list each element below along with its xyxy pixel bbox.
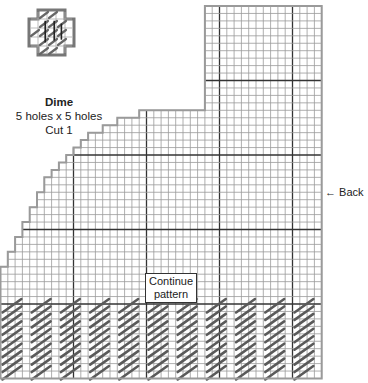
slanted-stitch	[90, 344, 109, 357]
slanted-stitch	[149, 321, 168, 334]
continue-pattern-note: Continue pattern	[145, 273, 197, 303]
slanted-stitch	[295, 321, 314, 334]
piece-caption: Dime 5 holes x 5 holes Cut 1	[0, 95, 118, 137]
slanted-stitch	[236, 306, 255, 319]
slanted-stitch	[90, 336, 109, 349]
slanted-stitch	[32, 359, 51, 372]
piece-size: 5 holes x 5 holes	[0, 109, 118, 123]
slanted-stitch	[207, 299, 226, 312]
slanted-stitch	[207, 366, 226, 379]
slanted-stitch	[119, 314, 138, 327]
slanted-stitch	[32, 314, 51, 327]
slanted-stitch	[295, 314, 314, 327]
back-side-label: ← Back	[325, 186, 364, 198]
slanted-stitch	[295, 306, 314, 319]
slanted-stitch	[178, 359, 197, 372]
slanted-stitch	[61, 359, 80, 372]
slanted-stitch	[149, 314, 168, 327]
slanted-stitch	[178, 336, 197, 349]
slanted-stitch	[236, 299, 255, 312]
slanted-stitch	[149, 344, 168, 357]
slanted-stitch	[90, 306, 109, 319]
slanted-stitch	[207, 351, 226, 364]
slanted-stitch	[61, 321, 80, 334]
continue-line-1: Continue	[146, 275, 196, 288]
slanted-stitch	[119, 344, 138, 357]
slanted-stitch	[32, 351, 51, 364]
slanted-stitch	[90, 299, 109, 312]
slanted-stitch	[236, 366, 255, 379]
slanted-stitch	[32, 366, 51, 379]
slanted-stitch	[32, 329, 51, 342]
slanted-stitch	[295, 351, 314, 364]
slanted-stitch	[149, 366, 168, 379]
slanted-stitch	[236, 359, 255, 372]
slanted-stitch	[61, 366, 80, 379]
slanted-stitch	[32, 299, 51, 312]
piece-cut-count: Cut 1	[0, 123, 118, 137]
slanted-stitch	[207, 306, 226, 319]
dime-motif-icon	[29, 10, 74, 55]
slanted-stitch	[119, 351, 138, 364]
slanted-stitch	[119, 321, 138, 334]
slanted-stitch	[61, 329, 80, 342]
slanted-stitch	[32, 306, 51, 319]
slanted-stitch	[265, 351, 284, 364]
slanted-stitch	[236, 321, 255, 334]
slanted-stitch	[61, 351, 80, 364]
slanted-stitch	[61, 344, 80, 357]
slanted-stitch	[149, 351, 168, 364]
slanted-stitch	[295, 359, 314, 372]
slanted-stitch	[265, 299, 284, 312]
slanted-stitch	[178, 366, 197, 379]
slanted-stitch	[265, 336, 284, 349]
slanted-stitch	[3, 366, 22, 379]
slanted-stitch	[32, 321, 51, 334]
slanted-stitch	[61, 314, 80, 327]
slanted-stitch	[178, 306, 197, 319]
slanted-stitch	[236, 344, 255, 357]
slanted-stitch	[265, 359, 284, 372]
slanted-stitch	[61, 299, 80, 312]
slanted-stitch	[236, 329, 255, 342]
slanted-stitch	[207, 321, 226, 334]
slanted-stitch	[295, 344, 314, 357]
slanted-stitch	[265, 366, 284, 379]
slanted-stitch	[90, 329, 109, 342]
slanted-stitch	[61, 336, 80, 349]
slanted-stitch	[207, 314, 226, 327]
slanted-stitch	[265, 344, 284, 357]
slanted-stitch	[3, 306, 22, 319]
slanted-stitch	[295, 299, 314, 312]
slanted-stitch	[119, 336, 138, 349]
slanted-stitch	[119, 306, 138, 319]
slanted-stitch	[3, 336, 22, 349]
slanted-stitch	[295, 336, 314, 349]
slanted-stitch	[149, 306, 168, 319]
slanted-stitch	[207, 329, 226, 342]
slanted-stitch	[178, 321, 197, 334]
slanted-stitch	[3, 314, 22, 327]
slanted-stitch	[32, 336, 51, 349]
slanted-stitch	[90, 351, 109, 364]
slanted-stitch	[32, 344, 51, 357]
slanted-stitch	[265, 321, 284, 334]
slanted-stitch	[119, 299, 138, 312]
slanted-stitch	[178, 351, 197, 364]
continue-line-2: pattern	[146, 288, 196, 301]
slanted-stitch	[90, 321, 109, 334]
slanted-stitch	[149, 329, 168, 342]
slanted-stitch	[3, 344, 22, 357]
slanted-stitch	[3, 329, 22, 342]
slanted-stitch	[119, 329, 138, 342]
slanted-stitch	[178, 314, 197, 327]
slanted-stitch	[265, 329, 284, 342]
slanted-stitch	[61, 306, 80, 319]
slanted-stitch	[236, 351, 255, 364]
slanted-stitch	[149, 336, 168, 349]
slanted-stitch	[90, 366, 109, 379]
slanted-stitch	[207, 336, 226, 349]
slanted-stitch	[119, 359, 138, 372]
slanted-stitch	[3, 351, 22, 364]
slanted-stitch	[207, 359, 226, 372]
